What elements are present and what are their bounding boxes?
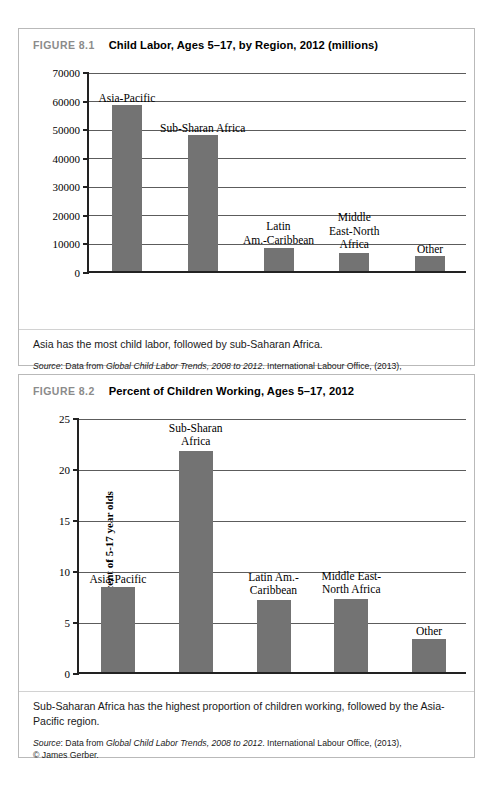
bar-category-label: Sub-Sharan Africa: [148, 122, 258, 136]
gridline: [89, 187, 466, 188]
bar-category-label: Other: [373, 625, 485, 639]
figure-number: FIGURE 8.1: [33, 39, 95, 51]
figure-page: FIGURE 8.1 Child Labor, Ages 5–17, by Re…: [0, 0, 492, 786]
bar: [188, 135, 218, 271]
figure-number: FIGURE 8.2: [33, 385, 95, 397]
source-lead: : Data from: [61, 738, 106, 748]
y-axis-tick-label: 50000: [53, 124, 81, 136]
y-axis-tick-label: 40000: [53, 153, 81, 165]
gridline: [89, 73, 466, 74]
y-axis-tick: [73, 622, 79, 624]
y-axis-tick: [73, 520, 79, 522]
bar-chart-percent-children-working: Percent of 5-17 year olds 0510152025Asia…: [19, 407, 474, 703]
plot-area: Millions 0100002000030000400005000060000…: [87, 73, 466, 273]
bar-category-label: Asia-Pacific: [62, 573, 174, 587]
y-axis-tick: [83, 129, 89, 131]
y-axis-tick-label: 5: [65, 617, 71, 629]
bar-category-label: Sub-Sharan Africa: [140, 422, 252, 449]
caption-divider: [19, 329, 474, 330]
figure-box-8-1: FIGURE 8.1 Child Labor, Ages 5–17, by Re…: [18, 28, 475, 366]
y-axis-tick: [83, 272, 89, 274]
figure-caption: Sub-Saharan Africa has the highest propo…: [33, 699, 461, 729]
bar: [112, 105, 142, 271]
y-axis-tick: [83, 72, 89, 74]
y-axis-tick-label: 0: [65, 668, 71, 680]
bar: [101, 587, 135, 672]
bar: [264, 248, 294, 271]
bar: [257, 600, 291, 672]
bar-category-label: Asia-Pacific: [72, 92, 182, 106]
gridline: [79, 470, 466, 471]
source-tail: . International Labour Office, (2013),: [262, 361, 401, 371]
figure-box-8-2: FIGURE 8.2 Percent of Children Working, …: [18, 374, 475, 758]
gridline: [89, 215, 466, 216]
source-title: Global Child Labor Trends, 2008 to 2012: [106, 738, 262, 748]
y-axis-tick-label: 70000: [53, 67, 81, 79]
source-label: Source: [33, 738, 61, 748]
gridline: [89, 130, 466, 131]
figure-heading-8-1: FIGURE 8.1 Child Labor, Ages 5–17, by Re…: [33, 39, 378, 51]
source-tail: . International Labour Office, (2013),: [262, 738, 401, 748]
bar-chart-child-labor-millions: Millions 0100002000030000400005000060000…: [19, 61, 474, 309]
y-axis-tick-label: 15: [59, 515, 70, 527]
figure-heading-8-2: FIGURE 8.2 Percent of Children Working, …: [33, 385, 354, 397]
bar: [415, 256, 445, 271]
y-axis-tick: [73, 418, 79, 420]
y-axis-tick: [83, 215, 89, 217]
y-axis-tick-label: 0: [75, 267, 81, 279]
y-axis-tick: [83, 158, 89, 160]
figure-source: Source: Data from Global Child Labor Tre…: [33, 737, 461, 762]
gridline: [79, 521, 466, 522]
figure-caption: Asia has the most child labor, followed …: [33, 337, 461, 352]
y-axis-tick-label: 30000: [53, 181, 81, 193]
bar-category-label: Other: [375, 243, 485, 257]
y-axis-tick: [83, 186, 89, 188]
gridline: [79, 419, 466, 420]
source-copyright: © James Gerber.: [33, 750, 99, 760]
source-title: Global Child Labor Trends, 2008 to 2012: [106, 361, 262, 371]
y-axis-tick: [73, 469, 79, 471]
bar: [412, 639, 446, 672]
bar-category-label: Middle East- North Africa: [295, 570, 407, 597]
figure-title: Percent of Children Working, Ages 5–17, …: [109, 385, 354, 397]
source-label: Source: [33, 361, 61, 371]
plot-area: Percent of 5-17 year olds 0510152025Asia…: [77, 419, 466, 674]
y-axis-tick: [83, 243, 89, 245]
y-axis-tick-label: 20: [59, 464, 70, 476]
y-axis-tick-label: 25: [59, 413, 70, 425]
source-lead: : Data from: [61, 361, 106, 371]
bar: [334, 599, 368, 672]
bar: [179, 451, 213, 672]
caption-divider: [19, 691, 474, 692]
gridline: [89, 158, 466, 159]
y-axis-tick-label: 20000: [53, 210, 81, 222]
figure-title: Child Labor, Ages 5–17, by Region, 2012 …: [109, 39, 378, 51]
y-axis-tick-label: 10000: [53, 238, 81, 250]
bar: [339, 253, 369, 271]
y-axis-tick: [73, 673, 79, 675]
